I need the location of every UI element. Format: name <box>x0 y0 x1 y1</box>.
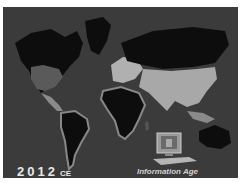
era-label: CE <box>60 169 71 178</box>
year-label: 2012CE <box>17 164 71 178</box>
world-map-frame: 2012CE Information Age <box>3 7 238 178</box>
central-america <box>41 93 63 111</box>
southeast-asia <box>187 111 215 123</box>
world-map <box>3 7 238 178</box>
era-caption: Information Age <box>137 167 198 176</box>
madagascar <box>145 121 149 131</box>
greenland <box>85 17 111 55</box>
africa <box>101 87 145 139</box>
russia <box>121 27 229 69</box>
usa-lit <box>31 65 63 91</box>
year-value: 2012 <box>17 164 58 178</box>
asia <box>139 67 217 111</box>
computer-icon <box>149 131 199 169</box>
south-america <box>61 111 89 169</box>
australia <box>199 125 231 149</box>
